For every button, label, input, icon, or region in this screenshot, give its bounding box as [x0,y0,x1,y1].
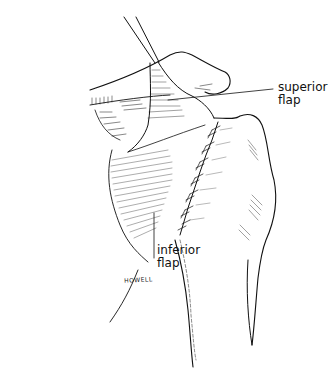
suture-line [178,122,232,235]
superior-flap-label: superior flap [278,81,327,107]
tendon-strip [128,62,214,152]
humeral-head [214,114,276,345]
shoulder-anatomy-drawing [0,0,332,380]
superior-flap-label-line2: flap [278,94,327,107]
superior-flap-leader [168,89,273,100]
acromion [90,52,230,105]
forceps [124,17,159,63]
artist-signature: HOWELL [124,275,153,283]
inferior-flap-label: inferior flap [157,244,200,270]
glenoid-region [92,96,146,140]
inferior-flap-label-line2: flap [157,257,200,270]
